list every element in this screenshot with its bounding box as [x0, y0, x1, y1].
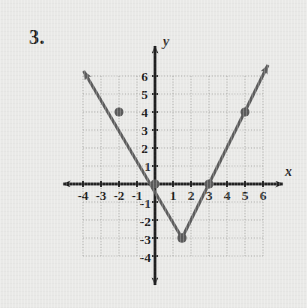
y-tick-label-5: 5	[141, 87, 148, 102]
y-tick-label-neg2: -2	[140, 214, 151, 229]
point-neg2-4	[114, 107, 123, 116]
y-tick-label-neg1: -1	[140, 196, 151, 211]
y-tick-label-6: 6	[141, 69, 148, 84]
x-tick-label-4: 4	[224, 188, 231, 203]
y-tick-label-3: 3	[141, 123, 148, 138]
y-tick-label-neg3: -3	[140, 232, 151, 247]
x-tick-label-neg2: -2	[113, 188, 124, 203]
x-axis-label: x	[284, 164, 292, 179]
grid-lines	[83, 76, 263, 256]
x-tick-label-5: 5	[242, 188, 249, 203]
y-tick-label-neg4: -4	[140, 250, 151, 265]
coordinate-plane-graph: -4 -3 -2 -1 1 2 3 4 5 6 6 5 4 3 2 1 -1 -…	[0, 0, 307, 308]
y-tick-label-4: 4	[141, 105, 148, 120]
y-tick-label-1: 1	[144, 159, 151, 174]
x-tick-label-6: 6	[260, 188, 267, 203]
x-tick-label-1: 1	[170, 188, 177, 203]
plotted-points	[114, 107, 249, 242]
y-tick-label-2: 2	[141, 141, 148, 156]
absolute-value-curve	[84, 65, 268, 238]
point-origin	[150, 179, 159, 188]
x-tick-label-2: 2	[188, 188, 195, 203]
point-5-4	[240, 107, 249, 116]
x-tick-label-neg4: -4	[77, 188, 88, 203]
y-axis-label: y	[161, 34, 170, 49]
x-tick-label-3: 3	[206, 188, 213, 203]
figure-container: 3.	[0, 0, 307, 308]
point-vertex	[177, 233, 187, 243]
x-tick-label-neg3: -3	[95, 188, 106, 203]
